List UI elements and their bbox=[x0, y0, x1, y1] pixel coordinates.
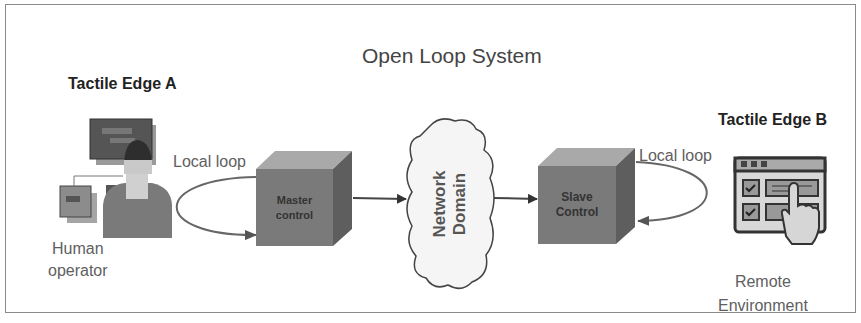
local-loop-b-label: Local loop bbox=[639, 147, 712, 165]
remote-environment-line2: Environment bbox=[718, 294, 808, 318]
network-domain-label: Network Domain bbox=[430, 154, 470, 254]
local-loop-a-label: Local loop bbox=[173, 153, 246, 171]
human-operator-line2: operator bbox=[48, 260, 108, 282]
network-domain-line1: Network bbox=[430, 154, 450, 254]
human-operator-icon bbox=[60, 119, 172, 238]
tactile-edge-b-label: Tactile Edge B bbox=[718, 111, 827, 129]
master-control-line2: control bbox=[256, 208, 333, 223]
local-loop-b-path bbox=[636, 162, 707, 221]
diagram-title: Open Loop System bbox=[362, 44, 542, 68]
network-domain-line2: Domain bbox=[450, 154, 470, 254]
human-operator-line1: Human bbox=[48, 238, 108, 260]
human-operator-label: Human operator bbox=[48, 238, 108, 282]
arrow-master-to-network bbox=[353, 198, 406, 199]
slave-control-line2: Control bbox=[538, 205, 616, 220]
local-loop-a-path bbox=[177, 177, 258, 235]
remote-environment-label: Remote Environment bbox=[718, 270, 808, 318]
remote-environment-line1: Remote bbox=[718, 270, 808, 294]
slave-control-line1: Slave bbox=[538, 190, 616, 205]
tactile-edge-a-label: Tactile Edge A bbox=[68, 75, 176, 93]
master-control-label: Master control bbox=[256, 193, 333, 223]
master-control-line1: Master bbox=[256, 193, 333, 208]
slave-control-label: Slave Control bbox=[538, 190, 616, 220]
arrow-network-to-slave bbox=[494, 198, 537, 199]
touch-interface-icon bbox=[735, 158, 825, 244]
